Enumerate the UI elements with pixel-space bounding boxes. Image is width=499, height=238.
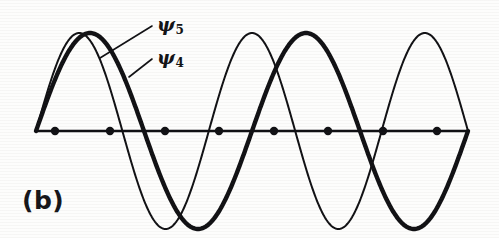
psi4-subscript: 4 (175, 56, 183, 70)
leader-line-ψ5 (100, 26, 152, 58)
atom-marker-4 (215, 127, 223, 135)
leader-line-ψ4 (129, 59, 152, 77)
psi5-symbol: ψ (157, 13, 175, 35)
psi4-symbol: ψ (157, 46, 175, 68)
curve-label-psi4: ψ4 (157, 48, 184, 69)
atom-marker-6 (324, 127, 332, 135)
atom-marker-5 (270, 127, 278, 135)
psi5-subscript: 5 (175, 23, 183, 37)
atom-marker-2 (106, 127, 114, 135)
figure-panel-b: ψ5 ψ4 (b) (0, 0, 499, 238)
panel-label: (b) (22, 188, 64, 213)
atom-marker-8 (433, 127, 441, 135)
wavefunction-plot (0, 0, 499, 238)
atom-marker-3 (161, 127, 169, 135)
atom-marker-7 (379, 127, 387, 135)
annotation-leader-group (100, 26, 152, 77)
atom-marker-1 (51, 127, 59, 135)
curve-label-psi5: ψ5 (157, 15, 184, 36)
